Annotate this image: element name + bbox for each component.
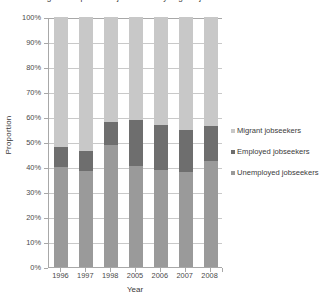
chart-legend: Migrant jobseekersEmployed jobseekersUne…: [231, 126, 333, 189]
stacked-bar-chart: Figure: Proportion of jobseekers by migr…: [0, 0, 333, 304]
bar-segment[interactable]: [179, 130, 193, 173]
bar-group[interactable]: [104, 17, 118, 267]
bar-segment[interactable]: [54, 167, 68, 267]
bar-segment[interactable]: [204, 126, 218, 161]
y-tick-label: 90%: [1, 39, 41, 47]
bar-segment[interactable]: [129, 120, 143, 166]
bar-segment[interactable]: [79, 17, 93, 151]
bar-segment[interactable]: [54, 17, 68, 147]
bar-group[interactable]: [54, 17, 68, 267]
bar-segment[interactable]: [54, 147, 68, 167]
chart-title: Figure: Proportion of jobseekers by migr…: [40, 0, 250, 3]
legend-label: Unemployed jobseekers: [237, 168, 318, 178]
bar-group[interactable]: [79, 17, 93, 267]
bar-segment[interactable]: [154, 170, 168, 268]
y-tick-label: 20%: [1, 214, 41, 222]
legend-item[interactable]: Unemployed jobseekers: [231, 168, 333, 189]
bar-segment[interactable]: [204, 17, 218, 126]
legend-label: Employed jobseekers: [237, 147, 310, 157]
y-axis-title: Proportion: [4, 95, 14, 175]
bar-segment[interactable]: [179, 172, 193, 267]
legend-swatch-icon: [231, 129, 235, 133]
legend-item[interactable]: Employed jobseekers: [231, 147, 333, 168]
bar-segment[interactable]: [129, 17, 143, 120]
plot-area: [48, 18, 222, 268]
bar-segment[interactable]: [154, 125, 168, 170]
bar-group[interactable]: [204, 17, 218, 267]
bar-segment[interactable]: [204, 161, 218, 267]
bar-segment[interactable]: [79, 171, 93, 267]
y-tick-label: 80%: [1, 64, 41, 72]
x-axis-title: Year: [48, 285, 222, 295]
y-tick-label: 100%: [1, 14, 41, 22]
bar-segment[interactable]: [179, 17, 193, 130]
y-tick-label: 30%: [1, 189, 41, 197]
legend-label: Migrant jobseekers: [237, 126, 301, 136]
bar-group[interactable]: [179, 17, 193, 267]
legend-item[interactable]: Migrant jobseekers: [231, 126, 333, 147]
bar-segment[interactable]: [104, 122, 118, 145]
y-tick-label: 0%: [1, 264, 41, 272]
x-axis: 1996199719982005200620072008: [48, 271, 222, 285]
bar-segment[interactable]: [79, 151, 93, 171]
bar-group[interactable]: [154, 17, 168, 267]
y-tick-label: 10%: [1, 239, 41, 247]
bar-segment[interactable]: [104, 17, 118, 122]
legend-swatch-icon: [231, 150, 235, 154]
bar-segment[interactable]: [154, 17, 168, 125]
bar-segment[interactable]: [129, 166, 143, 267]
bar-segment[interactable]: [104, 145, 118, 268]
bar-group[interactable]: [129, 17, 143, 267]
legend-swatch-icon: [231, 171, 235, 175]
x-tick-label: 2008: [195, 271, 225, 281]
